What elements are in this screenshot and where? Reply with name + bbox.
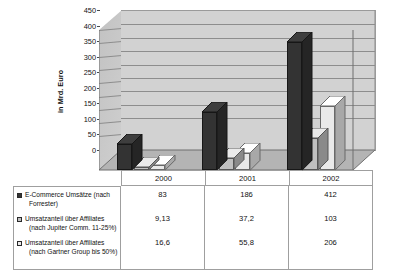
value-2001-series2: 37,2 [205, 214, 288, 223]
plot-box-3d [99, 10, 375, 170]
y-tick-200: 200 [84, 83, 96, 92]
bar-front-face [287, 42, 302, 170]
category-cell-2001: 2001 [205, 170, 289, 186]
legend-swatch-series2-icon [17, 217, 22, 222]
legend-item-2: Umsatzanteil über Affiliates (nach Jupit… [17, 215, 120, 232]
value-column-2000: 83 9,13 16,6 [121, 186, 205, 270]
bar-2000-series1 [117, 144, 132, 170]
bar-top-face [117, 134, 144, 146]
value-column-2002: 412 103 206 [289, 186, 373, 270]
value-2002-series2: 103 [289, 214, 372, 223]
category-cell-2000: 2000 [121, 170, 205, 186]
value-2002-series1: 412 [289, 190, 372, 199]
y-tick-350: 350 [84, 37, 96, 46]
y-tick-0: 0 [92, 145, 96, 154]
chart-plot-region: in Mrd. Euro 450 400 350 300 250 200 150… [0, 0, 412, 180]
legend-item-1: E-Commerce Umsätze (nach Forrester) [17, 191, 120, 208]
legend-item-2-line1: Umsatzanteil über Affiliates [25, 215, 104, 222]
legend-item-3-line1: Umsatzanteil über Affiliates [25, 239, 104, 246]
chart-figure: in Mrd. Euro 450 400 350 300 250 200 150… [0, 0, 412, 275]
legend-item-1-line2: Forrester) [25, 200, 120, 209]
bar-2002-series1 [287, 42, 302, 170]
value-2002-series3: 206 [289, 238, 372, 247]
y-tick-450: 450 [84, 6, 96, 15]
value-2001-series3: 55,8 [205, 238, 288, 247]
y-tick-150: 150 [84, 99, 96, 108]
y-tick-50: 50 [88, 130, 96, 139]
y-tick-300: 300 [84, 52, 96, 61]
data-table: 2000 2001 2002 E-Commerce Umsätze (nach … [13, 170, 373, 270]
value-column-2001: 186 37,2 55,8 [205, 186, 289, 270]
value-2000-series3: 16,6 [121, 238, 204, 247]
legend-swatch-series3-icon [17, 241, 22, 246]
legend-item-3: Umsatzanteil über Affiliates (nach Gartn… [17, 239, 120, 256]
bar-front-face [202, 112, 217, 170]
value-2000-series2: 9,13 [121, 214, 204, 223]
y-axis-tick-labels: 450 400 350 300 250 200 150 100 50 0 [68, 10, 100, 170]
legend-item-3-line2: (nach Gartner Group bis 50%) [25, 248, 120, 257]
bar-top-face [320, 96, 347, 108]
y-tick-400: 400 [84, 21, 96, 30]
bar-series-group [99, 10, 375, 171]
bar-top-face [202, 102, 229, 114]
bar-side-face [302, 32, 314, 172]
y-tick-100: 100 [84, 114, 96, 123]
legend-item-2-line2: (nach Jupiter Comm. 11-25%) [25, 224, 120, 233]
bar-2001-series1 [202, 112, 217, 170]
legend-box: E-Commerce Umsätze (nach Forrester) Umsa… [13, 186, 121, 270]
value-2001-series1: 186 [205, 190, 288, 199]
bar-top-face [287, 32, 314, 44]
legend-item-1-line1: E-Commerce Umsätze (nach [25, 191, 110, 198]
value-2000-series1: 83 [121, 190, 204, 199]
bar-front-face [117, 144, 132, 170]
category-cell-2002: 2002 [289, 170, 373, 186]
table-category-header-row: 2000 2001 2002 [121, 170, 373, 186]
legend-swatch-series1-icon [17, 193, 22, 198]
y-tick-250: 250 [84, 68, 96, 77]
